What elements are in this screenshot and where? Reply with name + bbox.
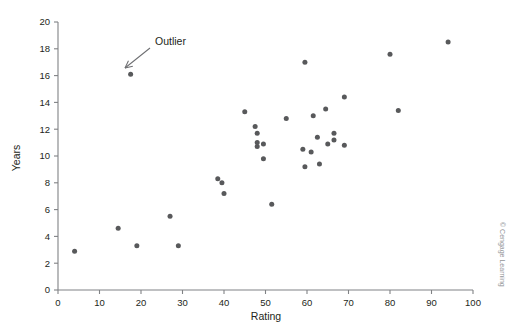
x-tick-label: 20	[136, 297, 147, 308]
y-tick-label: 10	[39, 150, 50, 161]
data-point	[168, 214, 173, 219]
y-tick-label: 8	[45, 177, 50, 188]
data-point	[215, 176, 220, 181]
data-point	[388, 52, 393, 57]
x-tick-label: 70	[343, 297, 354, 308]
y-tick-label: 2	[45, 258, 50, 269]
data-point	[325, 141, 330, 146]
y-axis-ticks: 02468101214161820	[39, 16, 58, 295]
data-point	[255, 144, 260, 149]
x-tick-label: 90	[426, 297, 437, 308]
y-tick-label: 6	[45, 204, 50, 215]
data-points	[72, 40, 451, 254]
data-point	[116, 226, 121, 231]
data-point	[331, 131, 336, 136]
data-point	[261, 141, 266, 146]
y-tick-label: 12	[39, 124, 50, 135]
data-point	[284, 116, 289, 121]
data-point	[302, 60, 307, 65]
data-point	[342, 95, 347, 100]
data-point	[446, 40, 451, 45]
outlier-arrow	[125, 48, 150, 68]
data-point	[253, 124, 258, 129]
data-point	[134, 243, 139, 248]
data-point	[302, 164, 307, 169]
data-point	[176, 243, 181, 248]
data-point	[300, 147, 305, 152]
data-point	[317, 162, 322, 167]
y-axis-title: Years	[10, 145, 22, 171]
data-point	[128, 72, 133, 77]
chart-annotations: Outlier	[125, 35, 186, 68]
data-point	[309, 149, 314, 154]
data-point	[315, 135, 320, 140]
x-tick-label: 80	[385, 297, 396, 308]
data-point	[261, 156, 266, 161]
x-tick-label: 40	[219, 297, 230, 308]
x-axis-ticks: 0102030405060708090100	[55, 290, 481, 308]
y-tick-label: 18	[39, 43, 50, 54]
x-tick-label: 100	[465, 297, 481, 308]
x-tick-label: 60	[302, 297, 313, 308]
scatter-plot-figure: 02468101214161820 0102030405060708090100…	[0, 0, 513, 336]
y-tick-label: 4	[45, 231, 50, 242]
data-point	[242, 109, 247, 114]
copyright-credit: © Cengage Learning	[498, 222, 506, 287]
data-point	[222, 191, 227, 196]
y-tick-label: 14	[39, 97, 50, 108]
data-point	[311, 113, 316, 118]
x-tick-label: 30	[177, 297, 188, 308]
y-tick-label: 0	[45, 284, 50, 295]
data-point	[255, 131, 260, 136]
data-point	[72, 249, 77, 254]
outlier-label: Outlier	[155, 35, 186, 47]
data-point	[219, 180, 224, 185]
x-tick-label: 10	[94, 297, 105, 308]
data-point	[323, 107, 328, 112]
data-point	[331, 137, 336, 142]
y-tick-label: 16	[39, 70, 50, 81]
y-tick-label: 20	[39, 16, 50, 27]
x-axis-title: Rating	[251, 310, 282, 322]
data-point	[396, 108, 401, 113]
data-point	[342, 143, 347, 148]
x-tick-label: 50	[260, 297, 271, 308]
data-point	[269, 202, 274, 207]
chart-canvas: 02468101214161820 0102030405060708090100…	[0, 0, 513, 336]
x-tick-label: 0	[55, 297, 60, 308]
